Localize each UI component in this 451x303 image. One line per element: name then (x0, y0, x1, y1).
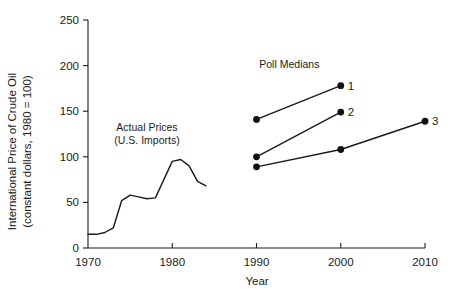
series-line-2 (257, 86, 341, 120)
y-tick-label: 0 (73, 242, 79, 254)
y-tick-label: 200 (60, 60, 79, 72)
annotation-actual-prices-line2: (U.S. Imports) (114, 134, 179, 146)
series-line-1 (88, 160, 206, 235)
x-tick-label: 1990 (244, 256, 270, 268)
y-axis-ticks: 050100150200250 (60, 14, 88, 254)
annotation-poll-medians: Poll Medians (259, 58, 319, 70)
x-tick-label: 2010 (412, 256, 438, 268)
annotations-group: Actual Prices(U.S. Imports)Poll Medians (114, 58, 319, 146)
series-label-3: 3 (432, 115, 438, 127)
x-tick-label: 1970 (75, 256, 101, 268)
series-label-2: 2 (348, 106, 354, 118)
y-tick-label: 50 (66, 196, 79, 208)
data-series-group: 123 (88, 80, 438, 235)
x-tick-label: 1980 (159, 256, 185, 268)
series-marker (253, 163, 260, 170)
chart-figure: International Price of Crude Oil (consta… (0, 0, 451, 303)
series-marker (422, 118, 429, 125)
series-marker (337, 146, 344, 153)
x-axis-title: Year (245, 275, 268, 287)
x-tick-label: 2000 (328, 256, 354, 268)
y-tick-label: 250 (60, 14, 79, 26)
plot-area: 050100150200250 19701980199020002010 123… (0, 0, 451, 303)
annotation-actual-prices-line1: Actual Prices (116, 121, 177, 133)
series-marker (253, 116, 260, 123)
series-label-1: 1 (348, 80, 354, 92)
series-marker (337, 109, 344, 116)
series-marker (253, 153, 260, 160)
series-marker (337, 82, 344, 89)
y-tick-label: 150 (60, 105, 79, 117)
x-axis-ticks: 19701980199020002010 (75, 243, 438, 268)
series-line-3 (257, 112, 341, 157)
y-tick-label: 100 (60, 151, 79, 163)
